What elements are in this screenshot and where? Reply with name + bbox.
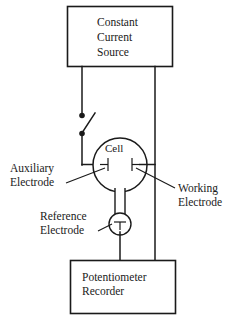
reference-salt-bridge-tube bbox=[115, 188, 125, 216]
working-electrode-label-line2: Electrode bbox=[178, 196, 222, 208]
schematic-canvas: Constant Current Source Cell bbox=[0, 0, 234, 325]
recorder-label-line2: Recorder bbox=[82, 285, 124, 297]
cell-label: Cell bbox=[105, 142, 123, 154]
source-label-line1: Constant bbox=[97, 16, 139, 28]
auxiliary-electrode-label-line1: Auxiliary bbox=[10, 162, 54, 175]
recorder-label-line1: Potentiometer bbox=[82, 271, 147, 283]
working-electrode-label-line1: Working bbox=[178, 182, 218, 195]
source-label-line2: Current bbox=[97, 31, 133, 43]
reference-electrode-label-line1: Reference bbox=[40, 210, 87, 222]
source-label-line3: Source bbox=[97, 46, 129, 58]
circuit-diagram: Constant Current Source Cell bbox=[0, 0, 234, 325]
reference-electrode-label-line2: Electrode bbox=[40, 224, 84, 236]
switch-upper-contact-dot bbox=[79, 113, 85, 119]
auxiliary-electrode-label-line2: Electrode bbox=[10, 176, 54, 188]
